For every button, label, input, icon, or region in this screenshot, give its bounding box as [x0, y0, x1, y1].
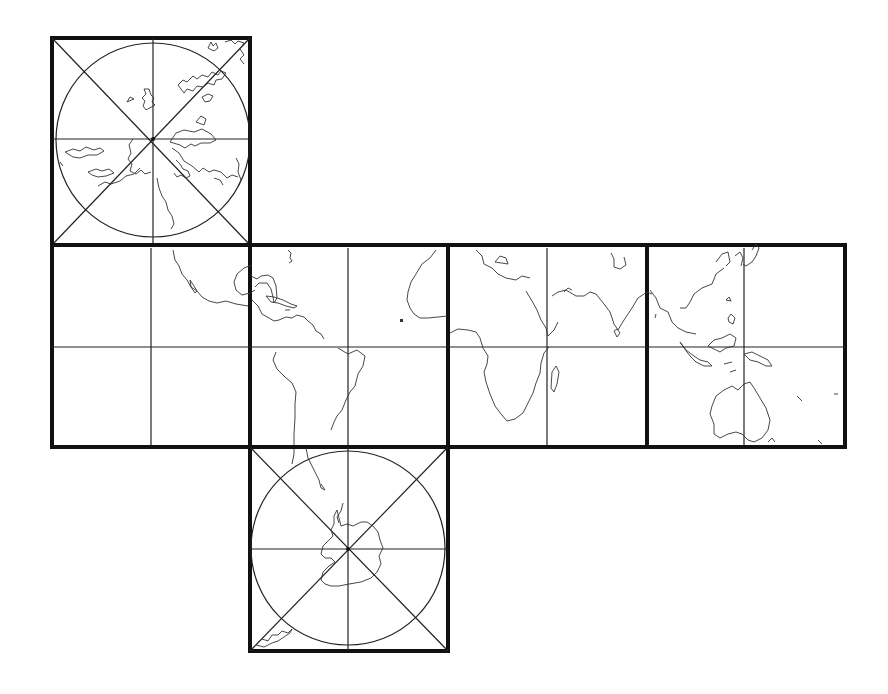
face-americas: [234, 250, 447, 464]
cube-world-map: [0, 0, 888, 694]
face-pacific: [173, 250, 248, 306]
face-north-polar: [52, 38, 250, 245]
south-polar-coastlines: [256, 448, 383, 647]
face-africa: [450, 250, 652, 421]
face-south-polar: [250, 447, 448, 651]
